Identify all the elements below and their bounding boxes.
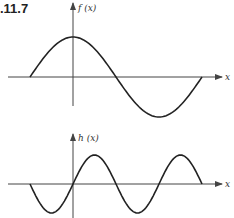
h-x-axis-label: x [225, 179, 230, 189]
plot-h: h (x) x [8, 133, 230, 218]
plot-f: f (x) x [8, 3, 230, 117]
f-x-axis-label: x [225, 72, 230, 82]
f-y-axis-label: f (x) [77, 3, 97, 13]
h-y-axis-label: h (x) [78, 133, 99, 143]
function-graphs: f (x) x h (x) x [0, 0, 234, 218]
